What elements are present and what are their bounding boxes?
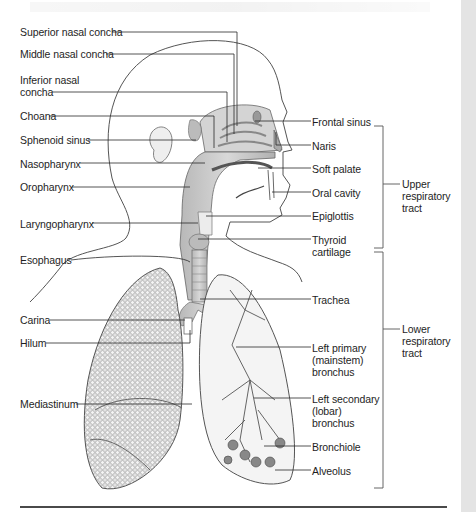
label-mediastinum: Mediastinum [20, 398, 78, 410]
label-oropharynx: Oropharynx [20, 181, 74, 193]
label-middle-nasal-concha: Middle nasal concha [20, 48, 114, 60]
label-frontal-sinus: Frontal sinus [312, 116, 371, 128]
label-nasopharynx: Nasopharynx [20, 158, 81, 170]
label-thyroid-cartilage: Thyroid cartilage [312, 234, 351, 258]
label-alveolus: Alveolus [312, 465, 351, 477]
label-choana: Choana [20, 110, 56, 122]
label-esophagus: Esophagus [20, 254, 72, 266]
label-oral-cavity: Oral cavity [312, 187, 361, 199]
label-laryngopharynx: Laryngopharynx [20, 218, 94, 230]
label-naris: Naris [312, 140, 336, 152]
nasal-cavity [188, 105, 282, 152]
left-lung [199, 275, 294, 484]
label-sphenoid-sinus: Sphenoid sinus [20, 134, 90, 146]
label-soft-palate: Soft palate [312, 163, 361, 175]
ear [150, 127, 172, 162]
label-superior-nasal-concha: Superior nasal concha [20, 26, 122, 38]
region-brackets [374, 126, 400, 488]
label-carina: Carina [20, 314, 50, 326]
label-inferior-nasal-concha: Inferior nasal concha [20, 74, 79, 98]
label-lower-respiratory-tract: Lower respiratory tract [402, 323, 451, 359]
label-left-secondary-bronchus: Left secondary (lobar) bronchus [312, 393, 379, 429]
label-upper-respiratory-tract: Upper respiratory tract [402, 178, 451, 214]
label-left-primary-bronchus: Left primary (mainstem) bronchus [312, 342, 366, 378]
page-gutter [461, 0, 476, 512]
bottom-rule [20, 506, 447, 508]
label-hilum: Hilum [20, 337, 46, 349]
figure-page: Superior nasal concha Middle nasal conch… [0, 0, 461, 512]
label-bronchiole: Bronchiole [312, 441, 361, 453]
label-epiglottis: Epiglottis [312, 210, 354, 222]
label-trachea: Trachea [312, 294, 349, 306]
